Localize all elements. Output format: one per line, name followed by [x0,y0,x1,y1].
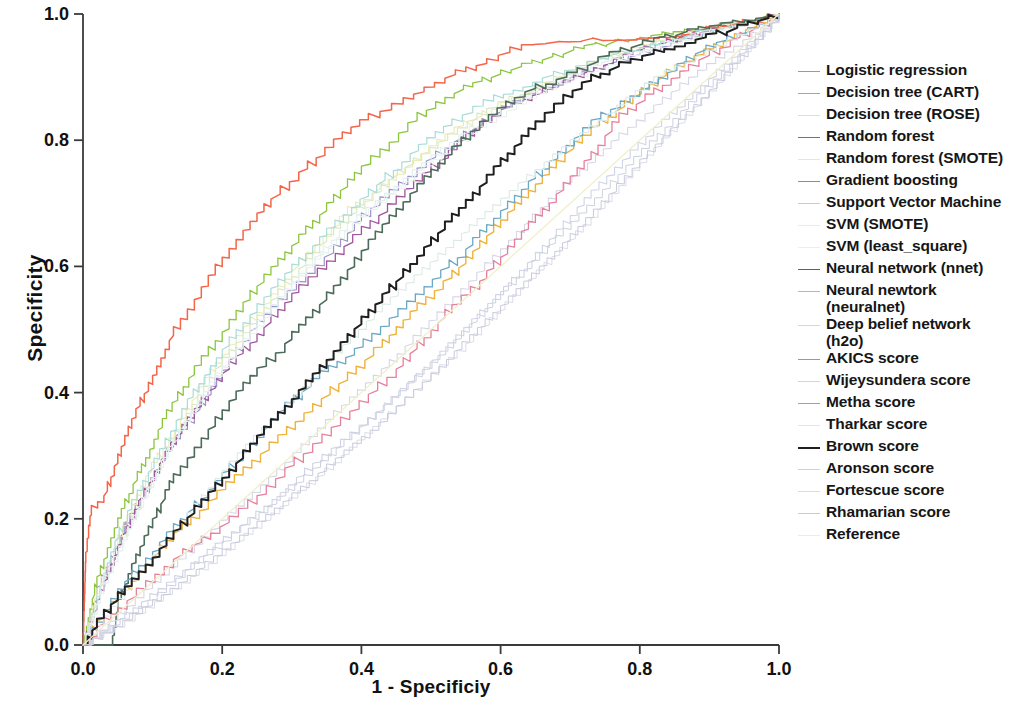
legend-item[interactable]: SVM (SMOTE) [796,216,1033,237]
legend-item-label: SVM (SMOTE) [826,216,928,233]
legend-color-swatch-icon [796,460,822,480]
legend-item-label: Support Vector Machine [826,194,1001,211]
legend-item[interactable]: Gradient boosting [796,172,1033,193]
legend-item-label: Neural network (nnet) [826,260,983,277]
roc-curves-svg: 0.00.20.40.60.81.00.00.20.40.60.81.0 [0,0,800,708]
legend-item[interactable]: Aronson score [796,460,1033,481]
x-axis-title: 1 - Specificiy [83,676,779,698]
legend-item[interactable]: Wijeysundera score [796,372,1033,393]
legend-color-swatch-icon [796,316,822,336]
legend-item[interactable]: Metha score [796,394,1033,415]
legend-item-label: Random forest (SMOTE) [826,150,1003,167]
legend-item[interactable]: Logistic regression [796,62,1033,83]
legend-item[interactable]: Decision tree (ROSE) [796,106,1033,127]
legend-color-swatch-icon [796,526,822,546]
legend-item[interactable]: Neural network (nnet) [796,260,1033,281]
legend-item-label: Rhamarian score [826,504,950,521]
legend-item-label: Tharkar score [826,416,927,433]
legend-color-swatch-icon [796,350,822,370]
legend-color-swatch-icon [796,372,822,392]
roc-chart-figure: 0.00.20.40.60.81.00.00.20.40.60.81.0 Spe… [0,0,1033,708]
y-tick-label: 1.0 [44,4,69,24]
legend-item[interactable]: Rhamarian score [796,504,1033,525]
legend-color-swatch-icon [796,150,822,170]
y-tick-label: 0.6 [44,256,69,276]
curve-layer [83,14,779,645]
y-tick-label: 0.0 [44,635,69,655]
legend-item[interactable]: Tharkar score [796,416,1033,437]
legend-item[interactable]: Deep belief network (h2o) [796,316,1033,349]
legend-item[interactable]: SVM (least_square) [796,238,1033,259]
legend-item-label: Logistic regression [826,62,967,79]
legend-item[interactable]: Random forest [796,128,1033,149]
legend-color-swatch-icon [796,504,822,524]
legend-item[interactable]: Neural newtork (neuralnet) [796,282,1033,315]
legend-item-label: SVM (least_square) [826,238,967,255]
legend-item[interactable]: Fortescue score [796,482,1033,503]
legend-item-label: AKICS score [826,350,919,367]
legend-item-label: Wijeysundera score [826,372,971,389]
legend-item[interactable]: Decision tree (CART) [796,84,1033,105]
legend-color-swatch-icon [796,106,822,126]
legend-item-label: Neural newtork (neuralnet) [826,282,937,315]
y-tick-label: 0.2 [44,509,69,529]
y-axis-title: Specificity [23,223,47,393]
y-tick-label: 0.4 [44,383,69,403]
legend-color-swatch-icon [796,84,822,104]
legend-item-label: Gradient boosting [826,172,958,189]
legend-color-swatch-icon [796,172,822,192]
legend-item-label: Reference [826,526,900,543]
legend-color-swatch-icon [796,128,822,148]
legend-item[interactable]: Random forest (SMOTE) [796,150,1033,171]
legend-item-label: Fortescue score [826,482,944,499]
legend-color-swatch-icon [796,438,822,458]
legend-item-label: Brown score [826,438,919,455]
legend-item[interactable]: Support Vector Machine [796,194,1033,215]
legend-item-label: Metha score [826,394,915,411]
legend-item[interactable]: AKICS score [796,350,1033,371]
y-tick-label: 0.8 [44,130,69,150]
legend-color-swatch-icon [796,394,822,414]
plot-area: 0.00.20.40.60.81.00.00.20.40.60.81.0 Spe… [0,0,800,708]
legend-color-swatch-icon [796,194,822,214]
legend-color-swatch-icon [796,238,822,258]
legend-color-swatch-icon [796,416,822,436]
legend-color-swatch-icon [796,216,822,236]
legend-item-label: Aronson score [826,460,934,477]
legend-item-label: Decision tree (CART) [826,84,979,101]
legend: Logistic regressionDecision tree (CART)D… [796,62,1033,548]
legend-color-swatch-icon [796,62,822,82]
legend-item[interactable]: Brown score [796,438,1033,459]
legend-item-label: Random forest [826,128,934,145]
legend-item[interactable]: Reference [796,526,1033,547]
legend-color-swatch-icon [796,282,822,302]
legend-item-label: Decision tree (ROSE) [826,106,980,123]
legend-item-label: Deep belief network (h2o) [826,316,971,349]
legend-color-swatch-icon [796,260,822,280]
legend-color-swatch-icon [796,482,822,502]
